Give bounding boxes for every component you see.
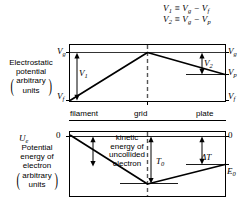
- annotation-t0-arrow: [148, 137, 153, 184]
- annotation-delta-t-arrow: [199, 137, 204, 165]
- annotation-v1-arrow: [74, 53, 79, 101]
- annotation-v2-arrow: [199, 53, 204, 75]
- figure-root: V1 ≡ Vg − Vf V2 ≡ Vg − Vp Electrostatic …: [0, 0, 245, 210]
- diagram-svg: [0, 0, 245, 210]
